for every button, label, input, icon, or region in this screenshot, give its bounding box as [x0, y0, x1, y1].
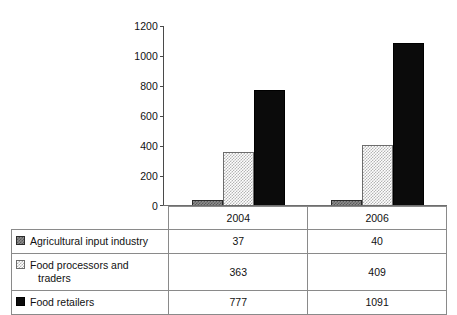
- table-header-2004: 2004: [169, 207, 308, 230]
- bar-2004-food-retailers: [254, 90, 285, 206]
- table-header-row: 2004 2006: [12, 207, 447, 230]
- legend-entry-food-retailers: Food retailers: [16, 296, 165, 309]
- table-cell-agricultural-2006: 40: [308, 229, 447, 253]
- table-row-label-cell-food-retailers: Food retailers: [12, 290, 169, 314]
- table-header-blank: [12, 207, 169, 230]
- data-table: 2004 2006 Agricultural input industry 37…: [11, 206, 447, 315]
- legend-label-food-processors-and-traders: Food processors and traders: [30, 259, 129, 284]
- legend-label-line2: traders: [30, 272, 129, 285]
- legend-label-agricultural-input-industry: Agricultural input industry: [30, 235, 148, 248]
- table-cell-food-processors-2006: 409: [308, 253, 447, 290]
- table-cell-food-retailers-2006: 1091: [308, 290, 447, 314]
- plot-area: 1200 1000 800 600 400 200 0: [0, 0, 457, 210]
- legend-entry-agricultural-input-industry: Agricultural input industry: [16, 235, 165, 248]
- bar-2006-food-processors-and-traders: [362, 145, 393, 206]
- bar-2004-food-processors-and-traders: [223, 152, 254, 206]
- gray-checker-swatch-icon: [16, 236, 25, 245]
- table-cell-food-retailers-2004: 777: [169, 290, 308, 314]
- table-row: Agricultural input industry 37 40: [12, 229, 447, 253]
- legend-label-food-retailers: Food retailers: [30, 296, 94, 309]
- table-row: Food retailers 777 1091: [12, 290, 447, 314]
- bar-2006-food-retailers: [393, 43, 424, 206]
- table-row: Food processors and traders 363 409: [12, 253, 447, 290]
- table-row-label-cell-agricultural-input-industry: Agricultural input industry: [12, 229, 169, 253]
- table-cell-agricultural-2004: 37: [169, 229, 308, 253]
- bars-layer: [0, 0, 457, 206]
- legend-label-line1: Food processors and: [30, 259, 129, 271]
- legend-entry-food-processors-and-traders: Food processors and traders: [16, 259, 165, 284]
- table-row-label-cell-food-processors-and-traders: Food processors and traders: [12, 253, 169, 290]
- solid-black-swatch-icon: [16, 297, 25, 306]
- table-cell-food-processors-2004: 363: [169, 253, 308, 290]
- light-checker-swatch-icon: [16, 260, 25, 269]
- table-header-2006: 2006: [308, 207, 447, 230]
